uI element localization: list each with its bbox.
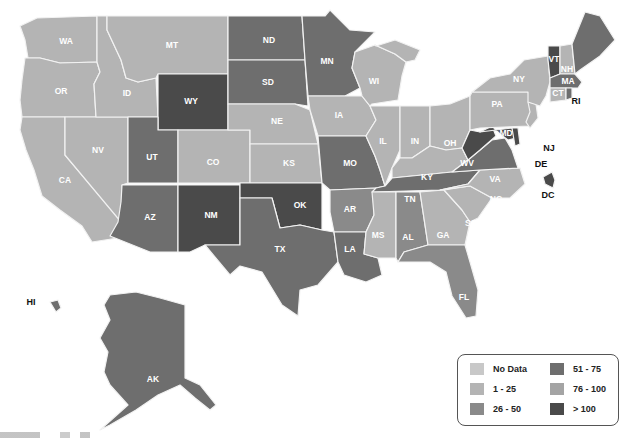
state-label-al: AL: [402, 232, 413, 242]
state-label-la: LA: [344, 244, 355, 254]
legend-label: No Data: [493, 364, 527, 374]
state-label-ak: AK: [147, 374, 160, 384]
state-ak[interactable]: [100, 292, 216, 430]
state-label-tn: TN: [404, 194, 415, 204]
state-label-dc: DC: [542, 190, 555, 200]
state-label-co: CO: [207, 157, 220, 167]
state-label-wi: WI: [369, 76, 379, 86]
legend-label: 76 - 100: [573, 384, 606, 394]
legend-swatch: [470, 403, 484, 415]
state-label-ar: AR: [344, 204, 356, 214]
state-label-md: MD: [499, 128, 512, 138]
state-label-az: AZ: [144, 212, 155, 222]
state-label-nc: NC: [490, 194, 502, 204]
state-label-nh: NH: [561, 64, 573, 74]
legend-swatch: [550, 363, 564, 375]
legend-label: > 100: [573, 404, 596, 414]
state-label-ks: KS: [283, 158, 295, 168]
legend-item-76-100: 76 - 100: [550, 383, 606, 395]
state-label-mo: MO: [343, 158, 357, 168]
state-label-tx: TX: [275, 244, 286, 254]
state-label-vt: VT: [549, 54, 561, 64]
legend-swatch: [550, 403, 564, 415]
legend-swatch: [470, 363, 484, 375]
state-label-ia: IA: [335, 110, 344, 120]
state-label-id: ID: [123, 88, 132, 98]
legend-item-gt-100: > 100: [550, 403, 596, 415]
state-label-nm: NM: [204, 210, 217, 220]
legend-item-1-25: 1 - 25: [470, 383, 516, 395]
state-label-wy: WY: [184, 96, 198, 106]
state-label-ct: CT: [552, 88, 564, 98]
state-label-ok: OK: [294, 200, 308, 210]
state-label-ca: CA: [59, 175, 71, 185]
state-label-ut: UT: [146, 152, 158, 162]
legend-label: 51 - 75: [573, 364, 601, 374]
state-label-mi: MI: [427, 96, 436, 106]
state-label-ma: MA: [561, 76, 574, 86]
legend-swatch: [470, 383, 484, 395]
state-label-ms: MS: [372, 230, 385, 240]
state-label-il: IL: [379, 136, 387, 146]
state-label-sc: SC: [465, 218, 477, 228]
state-label-de: DE: [535, 159, 548, 169]
state-label-mn: MN: [320, 56, 333, 66]
state-label-nv: NV: [92, 145, 104, 155]
state-label-mt: MT: [166, 40, 179, 50]
state-pa[interactable]: [470, 92, 532, 130]
state-label-wv: WV: [460, 158, 474, 168]
legend-label: 26 - 50: [493, 404, 521, 414]
state-label-ga: GA: [437, 230, 450, 240]
legend-item-26-50: 26 - 50: [470, 403, 521, 415]
cropped-caption: [0, 432, 200, 438]
state-label-pa: PA: [491, 99, 502, 109]
state-dc[interactable]: [543, 172, 555, 188]
state-label-oh: OH: [444, 138, 457, 148]
state-de[interactable]: [512, 128, 520, 146]
state-hi[interactable]: [50, 300, 61, 312]
legend-item-51-75: 51 - 75: [550, 363, 601, 375]
state-label-fl: FL: [459, 292, 469, 302]
state-label-or: OR: [55, 86, 68, 96]
state-label-ri: RI: [572, 96, 581, 106]
legend-label: 1 - 25: [493, 384, 516, 394]
legend-item-no-data: No Data: [470, 363, 527, 375]
state-label-sd: SD: [262, 77, 274, 87]
state-label-me: ME: [592, 62, 605, 72]
state-label-hi: HI: [27, 297, 36, 307]
state-label-nd: ND: [263, 35, 275, 45]
state-label-wa: WA: [59, 36, 73, 46]
state-label-in: IN: [411, 136, 420, 146]
state-fl[interactable]: [398, 245, 478, 318]
state-label-ny: NY: [513, 74, 525, 84]
state-label-ky: KY: [421, 172, 433, 182]
legend: No Data 1 - 25 26 - 50 51 - 75 76 - 100 …: [457, 354, 619, 426]
state-label-nj: NJ: [543, 143, 555, 153]
state-label-va: VA: [489, 174, 500, 184]
state-label-ne: NE: [271, 116, 283, 126]
legend-swatch: [550, 383, 564, 395]
